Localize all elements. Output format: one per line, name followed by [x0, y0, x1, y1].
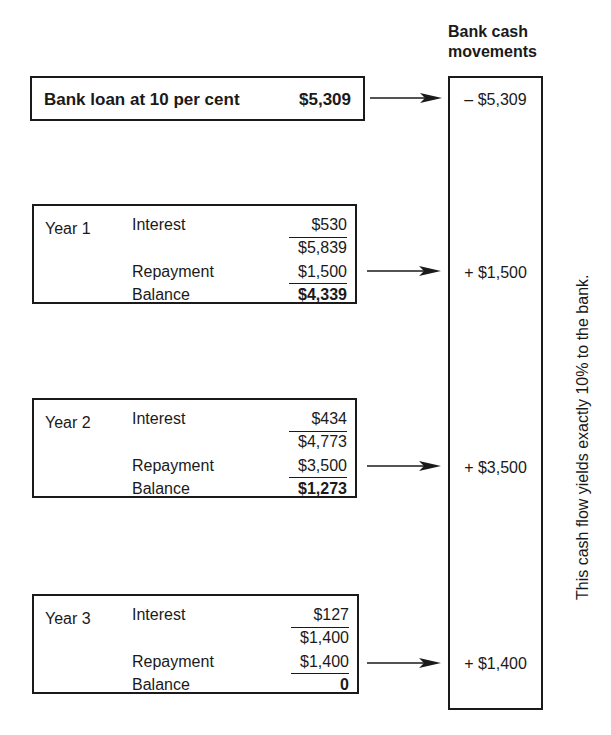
- repayment-value: $3,500: [298, 457, 347, 475]
- loan-amount: $5,309: [299, 90, 351, 110]
- interest-value: $434: [311, 410, 347, 428]
- year-2-box: Year 2 Interest $434 $4,773 Repayment $3…: [32, 398, 357, 498]
- rule: [289, 237, 347, 238]
- year-label: Year 3: [45, 610, 91, 628]
- interest-value: $530: [311, 216, 347, 234]
- year-3-box: Year 3 Interest $127 $1,400 Repayment $1…: [32, 594, 359, 694]
- interest-label: Interest: [132, 216, 185, 234]
- balance-value: $4,339: [298, 286, 347, 304]
- loan-box: Bank loan at 10 per cent $5,309: [30, 76, 365, 121]
- rule: [289, 477, 347, 478]
- subtotal-value: $1,400: [300, 629, 349, 647]
- cash-movement-year-2: + $3,500: [450, 459, 541, 477]
- repayment-label: Repayment: [132, 653, 214, 671]
- header-line-1: Bank cash: [448, 22, 537, 42]
- subtotal-value: $4,773: [298, 433, 347, 451]
- cash-movements-column: – $5,309 + $1,500 + $3,500 + $1,400: [448, 76, 543, 710]
- year-label: Year 2: [45, 414, 91, 432]
- rule: [291, 673, 349, 674]
- rule: [289, 431, 347, 432]
- cash-movement-year-3: + $1,400: [450, 655, 541, 673]
- repayment-value: $1,500: [298, 263, 347, 281]
- header-line-2: movements: [448, 42, 537, 62]
- interest-label: Interest: [132, 410, 185, 428]
- side-note: This cash flow yields exactly 10% to the…: [574, 180, 592, 600]
- arrow-right-icon: [370, 92, 442, 104]
- balance-label: Balance: [132, 480, 190, 498]
- interest-value: $127: [313, 606, 349, 624]
- balance-label: Balance: [132, 286, 190, 304]
- subtotal-value: $5,839: [298, 239, 347, 257]
- interest-label: Interest: [132, 606, 185, 624]
- cash-movements-header: Bank cash movements: [448, 22, 537, 62]
- repayment-label: Repayment: [132, 263, 214, 281]
- balance-value: $1,273: [298, 480, 347, 498]
- balance-value: 0: [340, 676, 349, 694]
- arrow-right-icon: [367, 657, 441, 669]
- balance-label: Balance: [132, 676, 190, 694]
- rule: [289, 283, 347, 284]
- loan-label: Bank loan at 10 per cent: [44, 90, 240, 110]
- repayment-value: $1,400: [300, 653, 349, 671]
- cash-movement-year-1: + $1,500: [450, 264, 541, 282]
- rule: [291, 627, 349, 628]
- arrow-right-icon: [367, 460, 441, 472]
- year-label: Year 1: [45, 220, 91, 238]
- year-1-box: Year 1 Interest $530 $5,839 Repayment $1…: [32, 204, 357, 304]
- repayment-label: Repayment: [132, 457, 214, 475]
- cash-movement-loan: – $5,309: [450, 91, 541, 109]
- arrow-right-icon: [367, 265, 441, 277]
